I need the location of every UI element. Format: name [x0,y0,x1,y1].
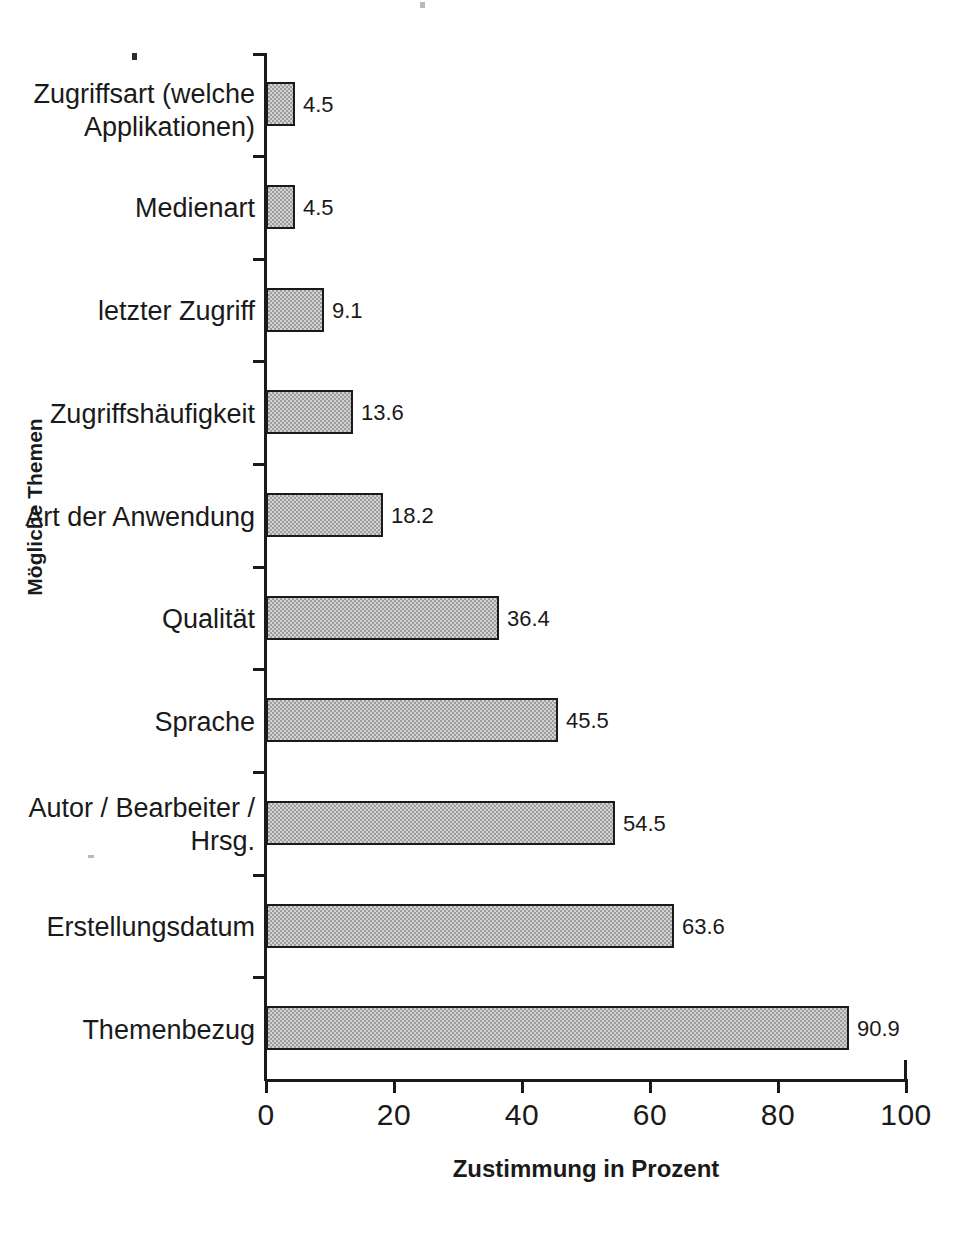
bar-value-autor-bearbeiter-hrsg: 54.5 [623,811,666,837]
bar-value-art-der-anwendung: 18.2 [391,503,434,529]
bar-value-zugriffsart: 4.5 [303,92,334,118]
bar-erstellungsdatum[interactable] [266,904,674,948]
bar-value-sprache: 45.5 [566,708,609,734]
bar-value-erstellungsdatum: 63.6 [682,914,725,940]
bar-medienart[interactable] [266,185,295,229]
bar-series: 4.5 4.5 9.1 13.6 18.2 36.4 45.5 54.5 63.… [0,0,969,1243]
bar-art-der-anwendung[interactable] [266,493,383,537]
bar-value-qualitaet: 36.4 [507,606,550,632]
bar-autor-bearbeiter-hrsg[interactable] [266,801,615,845]
bar-value-zugriffshaeufigkeit: 13.6 [361,400,404,426]
bar-value-medienart: 4.5 [303,195,334,221]
chart-canvas: 0 20 40 60 80 100 Zustimmung in Prozent … [0,0,969,1243]
bar-letzter-zugriff[interactable] [266,288,324,332]
bar-themenbezug[interactable] [266,1006,849,1050]
bar-qualitaet[interactable] [266,596,499,640]
bar-zugriffshaeufigkeit[interactable] [266,390,353,434]
bar-sprache[interactable] [266,698,558,742]
bar-value-letzter-zugriff: 9.1 [332,298,363,324]
bar-value-themenbezug: 90.9 [857,1016,900,1042]
bar-zugriffsart[interactable] [266,82,295,126]
